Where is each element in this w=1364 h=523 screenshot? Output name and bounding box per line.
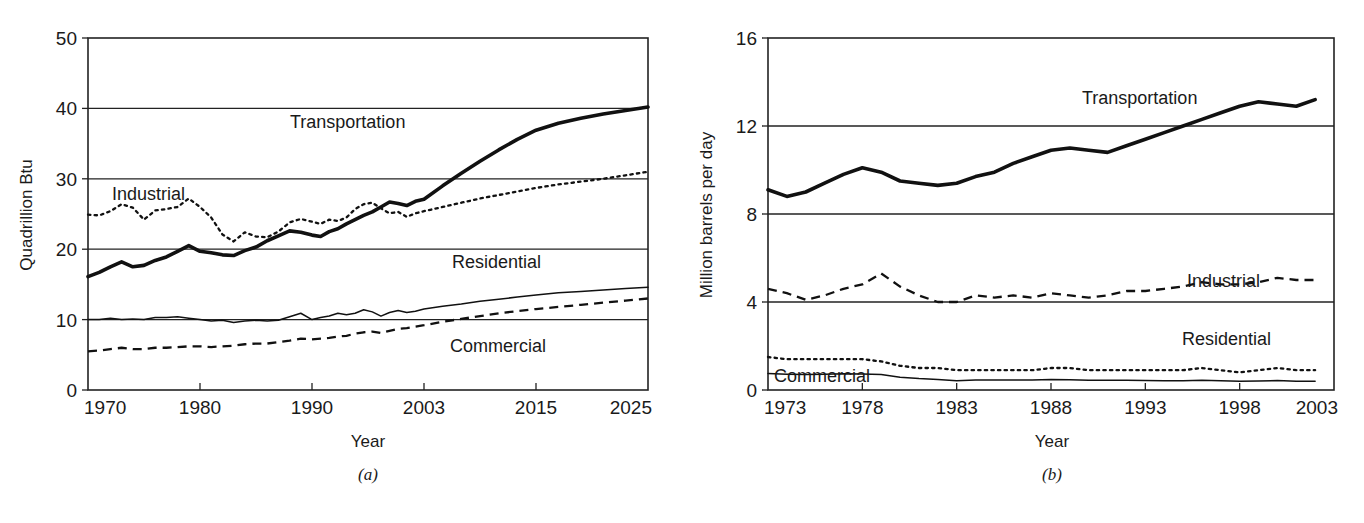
x-tick-label: 1998 (1219, 397, 1261, 418)
x-tick-label: 1978 (841, 397, 883, 418)
y-tick-label: 10 (56, 310, 77, 331)
chart-b-x-axis-title: Year (1035, 432, 1070, 451)
figure-two-panel-line-charts: 01020304050 197019801990200320152025 Qua… (0, 0, 1364, 523)
chart-b-series-annotations: TransportationIndustrialResidentialComme… (774, 88, 1271, 386)
chart-a-series-group (88, 107, 648, 351)
series-annotation-commercial: Commercial (450, 336, 546, 356)
x-tick-label: 1983 (936, 397, 978, 418)
series-line-transportation (768, 100, 1315, 197)
series-annotation-transportation: Transportation (1082, 88, 1197, 108)
chart-a-y-axis-title: Quadrillion Btu (17, 159, 36, 271)
x-tick-label: 1970 (84, 397, 126, 418)
x-tick-label: 1973 (764, 397, 806, 418)
chart-b-panel-caption: (b) (1042, 465, 1062, 484)
x-tick-label: 1993 (1124, 397, 1166, 418)
chart-a-x-tick-labels: 197019801990200320152025 (84, 397, 652, 418)
chart-b-y-tick-labels: 0481216 (736, 28, 758, 401)
x-tick-label: 1990 (291, 397, 333, 418)
series-line-industrial (88, 172, 648, 242)
series-annotation-industrial: Industrial (112, 184, 185, 204)
y-tick-label: 30 (56, 169, 77, 190)
y-tick-label: 4 (746, 292, 757, 313)
panel-a-canvas: 01020304050 197019801990200320152025 Qua… (0, 0, 682, 523)
y-tick-label: 20 (56, 239, 77, 260)
chart-b-y-axis-title: Million barrels per day (697, 131, 716, 298)
x-tick-label: 1980 (179, 397, 221, 418)
x-tick-label: 2003 (1296, 397, 1338, 418)
panel-b: 0481216 1973197819831988199319982003 Mil… (682, 0, 1364, 523)
chart-a-y-tick-labels: 01020304050 (56, 28, 77, 401)
series-annotation-residential: Residential (452, 252, 541, 272)
series-annotation-residential: Residential (1182, 329, 1271, 349)
chart-a-x-axis-title: Year (351, 432, 386, 451)
y-tick-label: 0 (66, 380, 77, 401)
y-tick-label: 50 (56, 28, 77, 49)
series-annotation-transportation: Transportation (290, 112, 405, 132)
chart-b-x-tick-labels: 1973197819831988199319982003 (764, 397, 1338, 418)
x-tick-label: 2025 (610, 397, 652, 418)
y-tick-label: 0 (746, 380, 757, 401)
chart-a-panel-caption: (a) (358, 465, 378, 484)
series-annotation-commercial: Commercial (774, 366, 870, 386)
series-line-commercial (88, 298, 648, 351)
series-annotation-industrial: Industrial (1187, 271, 1260, 291)
panel-a: 01020304050 197019801990200320152025 Qua… (0, 0, 682, 523)
y-tick-label: 40 (56, 98, 77, 119)
series-line-residential (88, 287, 648, 322)
y-tick-label: 12 (736, 116, 757, 137)
x-tick-label: 2003 (403, 397, 445, 418)
chart-a-svg: 01020304050 197019801990200320152025 Qua… (0, 0, 682, 523)
x-tick-label: 2015 (515, 397, 557, 418)
y-tick-label: 16 (736, 28, 757, 49)
chart-b-svg: 0481216 1973197819831988199319982003 Mil… (682, 0, 1364, 523)
y-tick-label: 8 (746, 204, 757, 225)
x-tick-label: 1988 (1030, 397, 1072, 418)
panel-b-canvas: 0481216 1973197819831988199319982003 Mil… (682, 0, 1364, 523)
